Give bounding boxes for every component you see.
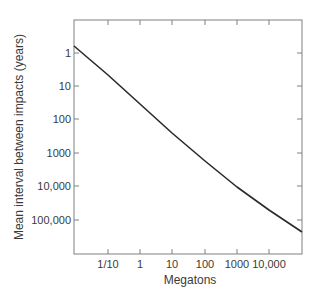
x-ticks xyxy=(108,20,269,254)
y-tick-label: 1000 xyxy=(47,147,71,159)
x-tick-label: 1 xyxy=(137,258,143,270)
x-tick-label: 1000 xyxy=(225,258,249,270)
x-tick-label: 10,000 xyxy=(252,258,286,270)
y-tick-label: 100,000 xyxy=(31,214,71,226)
y-tick-label: 100 xyxy=(53,113,71,125)
y-tick-label: 1 xyxy=(65,47,71,59)
x-tick-label: 100 xyxy=(196,258,214,270)
plot-frame xyxy=(74,20,302,254)
x-tick-label: 10 xyxy=(166,258,178,270)
y-tick-label: 10,000 xyxy=(37,180,71,192)
y-axis-label: Mean interval between impacts (years) xyxy=(12,34,26,240)
x-axis-label: Megatons xyxy=(164,273,217,287)
chart: 1 10 100 1000 10,000 100,000 1/10 1 10 1… xyxy=(0,0,319,298)
y-tick-labels: 1 10 100 1000 10,000 100,000 xyxy=(31,47,71,226)
y-ticks xyxy=(74,53,302,220)
y-tick-label: 10 xyxy=(59,80,71,92)
x-tick-labels: 1/10 1 10 100 1000 10,000 xyxy=(97,258,286,270)
x-tick-label: 1/10 xyxy=(97,258,118,270)
impact-interval-curve xyxy=(74,46,302,232)
